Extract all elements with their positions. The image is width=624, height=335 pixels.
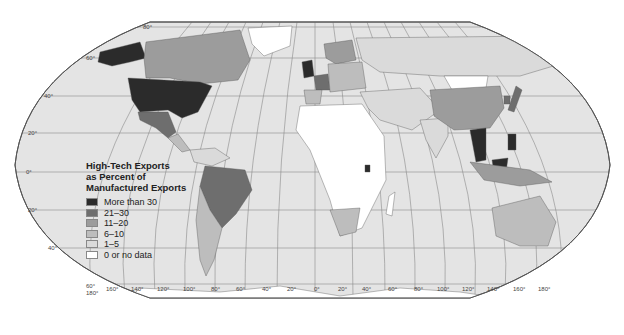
country-korea	[504, 96, 510, 104]
legend-item-0-or-no-data: 0 or no data	[86, 250, 216, 261]
legend-title: High-Tech Exports as Percent of Manufact…	[86, 160, 216, 193]
country-uganda	[365, 165, 370, 172]
map-legend: High-Tech Exports as Percent of Manufact…	[86, 160, 216, 260]
lat-label-80n: 80°	[143, 24, 152, 30]
country-france	[314, 74, 330, 90]
lat-label-20s: 20°	[28, 207, 37, 213]
lon-label-60e: 60°	[388, 286, 397, 292]
legend-item-6-10: 6–10	[86, 229, 216, 240]
lon-label-40e: 40°	[362, 286, 371, 292]
region-iberia	[304, 90, 322, 104]
region-europe-central	[328, 62, 366, 92]
legend-swatch	[86, 251, 98, 259]
lon-label-100e: 100°	[437, 286, 449, 292]
lon-label-80e: 80°	[414, 286, 423, 292]
lon-label-40w: 40°	[262, 286, 271, 292]
lon-label-160w: 160°	[106, 286, 118, 292]
legend-swatch	[86, 209, 98, 217]
lat-label-40s: 40°	[48, 245, 57, 251]
lon-label-160e: 160°	[513, 286, 525, 292]
lon-label-140e: 140°	[487, 286, 499, 292]
lat-label-40n: 40°	[44, 93, 53, 99]
legend-item-11-20: 11–20	[86, 218, 216, 229]
legend-swatch	[86, 230, 98, 238]
legend-item-more-than-30: More than 30	[86, 197, 216, 208]
lon-label-120e: 120°	[462, 286, 474, 292]
lon-label-180e: 180°	[538, 286, 550, 292]
country-uk	[302, 60, 314, 78]
lat-label-60s: 60°	[86, 283, 95, 289]
lon-label-0: 0°	[314, 286, 320, 292]
lat-label-20n: 20°	[28, 130, 37, 136]
legend-swatch	[86, 198, 98, 206]
legend-item-1-5: 1–5	[86, 239, 216, 250]
lon-label-180w: 180°	[86, 290, 98, 296]
lon-label-20w: 20°	[287, 286, 296, 292]
lon-label-120w: 120°	[157, 286, 169, 292]
lon-label-80w: 80°	[211, 286, 220, 292]
lon-label-60w: 60°	[236, 286, 245, 292]
legend-items: More than 30 21–30 11–20 6–10 1–5 0 or n…	[86, 197, 216, 260]
lat-label-0: 0°	[26, 169, 32, 175]
legend-swatch	[86, 240, 98, 248]
legend-swatch	[86, 219, 98, 227]
country-russia	[356, 36, 560, 76]
lat-label-60n: 60°	[86, 55, 95, 61]
legend-item-21-30: 21–30	[86, 208, 216, 219]
lon-label-100w: 100°	[183, 286, 195, 292]
country-philippines	[508, 134, 516, 150]
lon-label-20e: 20°	[338, 286, 347, 292]
lon-label-140w: 140°	[131, 286, 143, 292]
